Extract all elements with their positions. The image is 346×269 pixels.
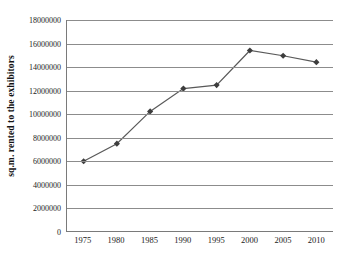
x-axis-tick-label: 1975 — [74, 235, 91, 245]
y-axis-tick-label: 0 — [57, 228, 61, 237]
y-axis-tick-label: 8000000 — [33, 133, 61, 142]
y-axis-tick-label: 16000000 — [29, 39, 61, 48]
y-axis-title-label: sq.m. rented to the exhibitors — [6, 55, 16, 177]
y-axis-tick-label: 18000000 — [29, 16, 61, 25]
y-axis-tick-label: 10000000 — [29, 110, 61, 119]
gridline — [67, 91, 333, 92]
gridline — [67, 20, 333, 21]
y-axis-tick-label: 4000000 — [33, 180, 61, 189]
x-axis-tick-label: 1985 — [141, 235, 158, 245]
gridline — [67, 44, 333, 45]
y-axis-tick-labels: 0200000040000006000000800000010000000120… — [18, 0, 64, 240]
x-axis-tick-label: 2010 — [308, 235, 325, 245]
gridline — [67, 67, 333, 68]
y-axis-tick-label: 14000000 — [29, 63, 61, 72]
x-axis-tick-label: 1980 — [108, 235, 125, 245]
y-axis-tick-label: 6000000 — [33, 157, 61, 166]
series-line-layer — [67, 20, 333, 231]
y-axis-tick-label: 12000000 — [29, 86, 61, 95]
y-axis-tick-label: 2000000 — [33, 204, 61, 213]
x-axis-tick-label: 1990 — [174, 235, 191, 245]
line-chart-figure: sq.m. rented to the exhibitors 020000004… — [0, 0, 346, 269]
gridline — [67, 138, 333, 139]
gridline — [67, 161, 333, 162]
data-point-marker — [313, 59, 319, 65]
x-axis-tick-labels: 19751980198519901995200020052010 — [66, 234, 333, 252]
x-axis-tick-label: 1995 — [208, 235, 225, 245]
gridline — [67, 185, 333, 186]
gridline — [67, 114, 333, 115]
x-axis-tick-label: 2000 — [241, 235, 258, 245]
plot-area — [66, 20, 333, 232]
x-axis-tick-label: 2005 — [274, 235, 291, 245]
gridline — [67, 208, 333, 209]
data-point-marker — [280, 53, 286, 59]
